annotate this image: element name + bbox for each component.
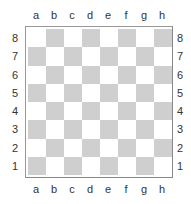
file-label-top: c [63,9,81,21]
square-d1 [82,157,100,175]
square-h6 [154,66,172,84]
square-a3 [28,120,46,138]
square-h2 [154,139,172,157]
square-c8 [64,29,82,47]
square-c4 [64,102,82,120]
board-frame [25,26,173,178]
square-d4 [82,102,100,120]
square-d7 [82,47,100,65]
square-d5 [82,84,100,102]
rank-label-right: 6 [174,69,186,81]
rank-label-right: 7 [174,50,186,62]
square-a4 [28,102,46,120]
square-b3 [46,120,64,138]
rank-label-left: 6 [9,69,21,81]
square-f5 [118,84,136,102]
square-h8 [154,29,172,47]
square-f4 [118,102,136,120]
rank-label-left: 4 [9,105,21,117]
square-b2 [46,139,64,157]
rank-label-right: 1 [174,160,186,172]
square-d6 [82,66,100,84]
square-f3 [118,120,136,138]
square-a1 [28,157,46,175]
square-f6 [118,66,136,84]
square-e3 [100,120,118,138]
square-d8 [82,29,100,47]
square-b5 [46,84,64,102]
square-f2 [118,139,136,157]
square-e5 [100,84,118,102]
rank-label-right: 2 [174,142,186,154]
square-g2 [136,139,154,157]
square-c7 [64,47,82,65]
rank-label-right: 3 [174,123,186,135]
file-label-top: g [135,9,153,21]
file-label-bottom: c [63,183,81,195]
square-h1 [154,157,172,175]
square-a6 [28,66,46,84]
file-label-top: h [153,9,171,21]
square-b8 [46,29,64,47]
rank-label-right: 5 [174,87,186,99]
square-e8 [100,29,118,47]
square-e6 [100,66,118,84]
rank-label-left: 2 [9,142,21,154]
square-c5 [64,84,82,102]
square-a5 [28,84,46,102]
square-c2 [64,139,82,157]
square-e4 [100,102,118,120]
rank-label-left: 1 [9,160,21,172]
square-h7 [154,47,172,65]
square-e2 [100,139,118,157]
square-e7 [100,47,118,65]
board-grid [28,29,172,175]
square-c6 [64,66,82,84]
square-a8 [28,29,46,47]
square-a7 [28,47,46,65]
square-b1 [46,157,64,175]
square-g5 [136,84,154,102]
square-d3 [82,120,100,138]
square-f7 [118,47,136,65]
square-h5 [154,84,172,102]
square-h3 [154,120,172,138]
file-label-bottom: e [99,183,117,195]
square-g6 [136,66,154,84]
square-e1 [100,157,118,175]
square-c3 [64,120,82,138]
square-g8 [136,29,154,47]
square-g4 [136,102,154,120]
file-label-bottom: f [117,183,135,195]
file-label-top: d [81,9,99,21]
square-h4 [154,102,172,120]
file-label-bottom: h [153,183,171,195]
square-a2 [28,139,46,157]
file-label-bottom: b [45,183,63,195]
square-g3 [136,120,154,138]
file-label-bottom: g [135,183,153,195]
square-f8 [118,29,136,47]
square-b4 [46,102,64,120]
file-label-bottom: a [27,183,45,195]
square-f1 [118,157,136,175]
square-d2 [82,139,100,157]
rank-label-right: 4 [174,105,186,117]
rank-label-left: 7 [9,50,21,62]
square-b6 [46,66,64,84]
file-label-top: f [117,9,135,21]
square-b7 [46,47,64,65]
rank-label-left: 8 [9,32,21,44]
square-c1 [64,157,82,175]
square-g7 [136,47,154,65]
rank-label-left: 3 [9,123,21,135]
square-g1 [136,157,154,175]
file-label-top: b [45,9,63,21]
rank-label-left: 5 [9,87,21,99]
file-label-bottom: d [81,183,99,195]
rank-label-right: 8 [174,32,186,44]
file-label-top: a [27,9,45,21]
file-label-top: e [99,9,117,21]
